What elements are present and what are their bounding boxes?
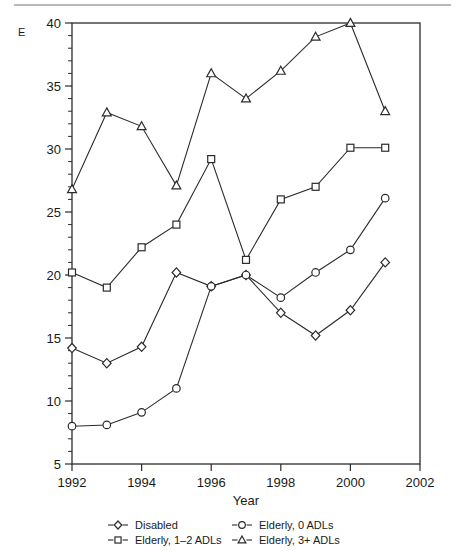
data-point-marker [173,221,180,228]
data-point-marker [103,284,110,291]
x-tick-label: 1994 [127,475,156,490]
y-tick-label: 10 [47,394,61,409]
x-axis-tick-labels: 199219941996199820002002 [58,475,435,490]
data-point-marker [311,32,320,40]
data-point-marker [137,342,146,351]
legend-label: Elderly, 1–2 ADLs [135,534,222,546]
data-point-marker [207,69,216,77]
data-point-marker [68,185,77,193]
x-tick-label: 1992 [58,475,87,490]
legend-label: Elderly, 3+ ADLs [259,534,340,546]
y-axis-label: E [18,26,25,38]
y-tick-label: 25 [47,205,61,220]
data-point-marker [312,183,319,190]
x-axis-ticks [72,464,420,471]
data-point-marker [102,359,111,368]
series-line [72,148,385,288]
legend-label: Disabled [135,519,178,531]
data-point-marker [138,409,146,417]
data-point-marker [347,246,355,254]
legend-marker [114,521,122,529]
legend-item-triangle[interactable]: Elderly, 3+ ADLs [232,534,340,546]
series-line [72,262,385,363]
plot-frame [72,23,420,464]
x-axis-title: Year [233,493,260,508]
data-point-marker [173,385,181,393]
chart-legend: DisabledElderly, 0 ADLsElderly, 1–2 ADLs… [108,519,340,546]
data-point-marker [312,269,320,277]
y-tick-label: 15 [47,331,61,346]
data-point-marker [243,256,250,263]
data-point-marker [242,94,251,102]
series-square [69,144,389,291]
data-point-marker [172,181,181,189]
series-diamond [68,258,390,368]
data-point-marker [311,331,320,340]
data-point-marker [138,244,145,251]
data-point-marker [381,107,390,115]
legend-marker [115,537,121,543]
x-tick-label: 1998 [266,475,295,490]
y-axis-ticks [65,23,72,464]
data-point-marker [381,194,389,202]
legend-marker [239,522,246,529]
y-tick-label: 35 [47,79,61,94]
legend-item-circle[interactable]: Elderly, 0 ADLs [232,519,334,531]
chart-svg: 510152025303540 199219941996199820002002… [0,0,459,557]
data-point-marker [69,269,76,276]
legend-marker [238,536,246,543]
series-triangle [68,18,390,192]
series-layer [68,18,390,430]
data-point-marker [103,421,111,429]
y-tick-label: 40 [47,16,61,31]
y-tick-label: 5 [54,457,61,472]
series-line [72,23,385,189]
y-axis-tick-labels: 510152025303540 [47,16,61,472]
line-chart-figure: 510152025303540 199219941996199820002002… [0,0,459,557]
x-tick-label: 2000 [336,475,365,490]
data-point-marker [382,144,389,151]
data-point-marker [277,294,285,302]
x-tick-label: 2002 [406,475,435,490]
data-point-marker [207,283,215,291]
data-point-marker [137,122,146,130]
data-point-marker [102,108,111,116]
legend-item-square[interactable]: Elderly, 1–2 ADLs [108,534,222,546]
data-point-marker [347,144,354,151]
y-tick-label: 30 [47,142,61,157]
legend-label: Elderly, 0 ADLs [259,519,334,531]
series-line [72,198,385,426]
data-point-marker [68,422,76,430]
data-point-marker [172,268,181,277]
series-circle [68,194,389,430]
data-point-marker [68,343,77,352]
legend-item-diamond[interactable]: Disabled [108,519,178,531]
data-point-marker [277,196,284,203]
x-tick-label: 1996 [197,475,226,490]
data-point-marker [242,271,250,279]
data-point-marker [208,156,215,163]
y-tick-label: 20 [47,268,61,283]
